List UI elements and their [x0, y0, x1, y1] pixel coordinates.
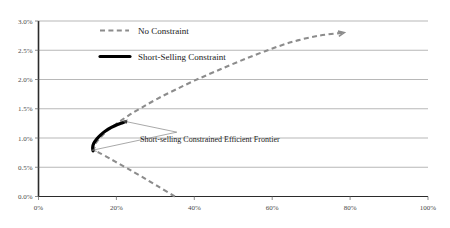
gridlines-group	[39, 21, 429, 167]
legend: No Constraint Short-Selling Constraint	[100, 26, 226, 62]
x-tick-label-3: 60%	[266, 204, 279, 212]
x-tick-label-4: 80%	[344, 204, 357, 212]
legend-label-short-selling-constraint: Short-Selling Constraint	[138, 52, 226, 62]
x-tick-label-1: 20%	[110, 204, 123, 212]
y-tick-label-group: 0.0%0.5%1.0%1.5%2.0%2.5%3.0%	[18, 18, 33, 202]
annotation-label: Short-selling Constrained Efficient Fron…	[140, 135, 280, 144]
y-tick-label-4: 2.0%	[18, 76, 33, 84]
y-tick-label-5: 2.5%	[18, 47, 33, 55]
y-tick-label-1: 0.5%	[18, 164, 33, 172]
x-tick-label-group: 0%20%40%60%80%100%	[34, 204, 437, 212]
x-tick-label-2: 40%	[188, 204, 201, 212]
efficient-frontier-chart: 0.0%0.5%1.0%1.5%2.0%2.5%3.0% 0%20%40%60%…	[0, 0, 450, 228]
y-tick-label-2: 1.0%	[18, 135, 33, 143]
y-tick-label-6: 3.0%	[18, 18, 33, 26]
x-tick-label-5: 100%	[420, 204, 437, 212]
legend-item-short-selling-constraint: Short-Selling Constraint	[100, 52, 226, 62]
annotation-leader-0	[123, 121, 176, 132]
chart-canvas: 0.0%0.5%1.0%1.5%2.0%2.5%3.0% 0%20%40%60%…	[0, 0, 450, 228]
y-tick-label-3: 1.5%	[18, 105, 33, 113]
legend-item-no-constraint: No Constraint	[100, 26, 189, 36]
legend-label-no-constraint: No Constraint	[138, 26, 189, 36]
y-tick-label-0: 0.0%	[18, 193, 33, 201]
x-tick-label-0: 0%	[34, 204, 44, 212]
